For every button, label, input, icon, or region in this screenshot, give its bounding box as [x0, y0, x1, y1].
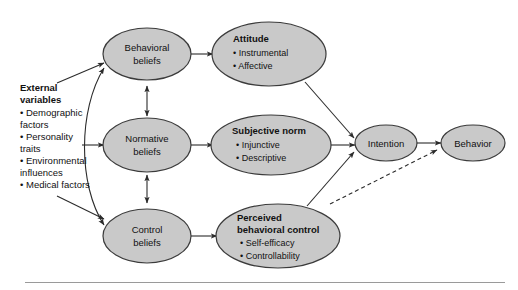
attitude-bullet-0: • Instrumental: [233, 48, 288, 58]
normative-beliefs-label-line1: Normative: [125, 133, 168, 144]
behavioral-beliefs-label-line1: Behavioral: [125, 42, 170, 53]
arrow-external-to-control-beliefs: [57, 196, 104, 219]
normative-beliefs-label-line2: beliefs: [133, 146, 161, 157]
theory-of-planned-behavior-diagram: External variables • Demographic factors…: [0, 0, 518, 290]
normative-beliefs-ellipse: [103, 118, 191, 172]
arrow-external-to-behavioral-beliefs: [57, 63, 104, 83]
attitude-bullet-1: • Affective: [233, 61, 273, 71]
node-intention[interactable]: Intention: [355, 125, 417, 161]
perceived-behavioral-control-title-line1: Perceived: [237, 212, 282, 223]
control-beliefs-ellipse: [103, 209, 191, 263]
node-attitude[interactable]: Attitude • Instrumental • Affective: [212, 22, 326, 86]
behavioral-beliefs-label-line2: beliefs: [133, 55, 161, 66]
node-behavioral-beliefs[interactable]: Behavioral beliefs: [103, 28, 191, 80]
external-variables-item-2: • Personality: [20, 131, 73, 142]
figure-canvas: External variables • Demographic factors…: [0, 0, 518, 290]
subjective-norm-title: Subjective norm: [232, 125, 306, 136]
external-variables-item-4: • Environmental: [20, 155, 87, 166]
perceived-behavioral-control-bullet-0: • Self-efficacy: [240, 238, 295, 248]
intention-label: Intention: [368, 138, 404, 149]
behavior-label: Behavior: [454, 138, 492, 149]
perceived-behavioral-control-title-line2: behavioral control: [237, 224, 319, 235]
external-variables-block: External variables • Demographic factors…: [20, 82, 90, 190]
attitude-title: Attitude: [233, 33, 269, 44]
node-control-beliefs[interactable]: Control beliefs: [103, 209, 191, 263]
behavioral-beliefs-ellipse: [103, 28, 191, 80]
node-behavior[interactable]: Behavior: [441, 125, 505, 161]
subjective-norm-bullet-0: • Injunctive: [236, 140, 280, 150]
external-variables-item-6: • Medical factors: [20, 179, 90, 190]
external-variables-item-1: factors: [20, 119, 49, 130]
external-variables-item-0: • Demographic: [20, 107, 83, 118]
external-variables-item-3: traits: [20, 143, 41, 154]
control-beliefs-label-line2: beliefs: [133, 237, 161, 248]
perceived-behavioral-control-bullet-1: • Controllability: [240, 251, 300, 261]
subjective-norm-bullet-1: • Descriptive: [236, 153, 286, 163]
arrow-behavioral-control-curved-bidirectional: [85, 68, 105, 225]
node-perceived-behavioral-control[interactable]: Perceived behavioral control • Self-effi…: [216, 204, 340, 268]
node-subjective-norm[interactable]: Subjective norm • Injunctive • Descripti…: [211, 115, 331, 175]
node-normative-beliefs[interactable]: Normative beliefs: [103, 118, 191, 172]
external-variables-item-5: influences: [20, 167, 63, 178]
control-beliefs-label-line1: Control: [132, 224, 163, 235]
external-variables-heading-line1: External: [20, 82, 58, 93]
external-variables-heading-line2: variables: [20, 94, 61, 105]
